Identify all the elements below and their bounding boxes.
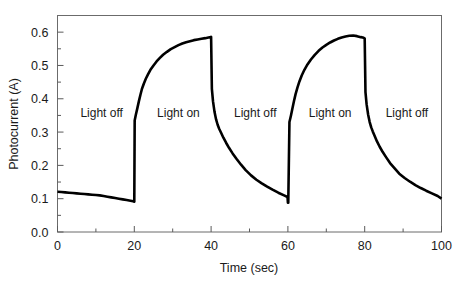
y-axis-major-ticks — [58, 32, 64, 232]
x-axis-title: Time (sec) — [220, 261, 279, 275]
y-tick-label: 0.5 — [31, 59, 48, 73]
photocurrent-figure: 0.00.10.20.30.40.50.6 020406080100 Light… — [0, 0, 466, 281]
light-state-label: Light off — [234, 106, 277, 120]
chart-canvas: 0.00.10.20.30.40.50.6 020406080100 Light… — [0, 0, 466, 281]
light-state-annotations: Light offLight onLight offLight onLight … — [80, 106, 428, 120]
x-axis-tick-labels: 020406080100 — [54, 239, 452, 253]
x-tick-label: 40 — [204, 239, 218, 253]
x-tick-label: 20 — [127, 239, 141, 253]
y-tick-label: 0.4 — [31, 92, 48, 106]
y-tick-label: 0.0 — [31, 226, 48, 240]
y-axis-tick-labels: 0.00.10.20.30.40.50.6 — [31, 26, 48, 240]
light-state-label: Light off — [80, 106, 123, 120]
x-tick-label: 60 — [281, 239, 295, 253]
x-tick-label: 80 — [358, 239, 372, 253]
plot-frame-rect — [58, 16, 442, 233]
light-state-label: Light off — [386, 106, 429, 120]
light-state-label: Light on — [157, 106, 200, 120]
y-tick-label: 0.1 — [31, 192, 48, 206]
y-axis-title: Photocurrent (A) — [7, 78, 21, 170]
y-tick-label: 0.6 — [31, 26, 48, 40]
x-axis-minor-ticks — [96, 229, 403, 233]
light-state-label: Light on — [309, 106, 352, 120]
x-tick-label: 100 — [431, 239, 452, 253]
y-tick-label: 0.2 — [31, 159, 48, 173]
plot-frame — [58, 16, 442, 233]
y-tick-label: 0.3 — [31, 126, 48, 140]
x-tick-label: 0 — [54, 239, 61, 253]
